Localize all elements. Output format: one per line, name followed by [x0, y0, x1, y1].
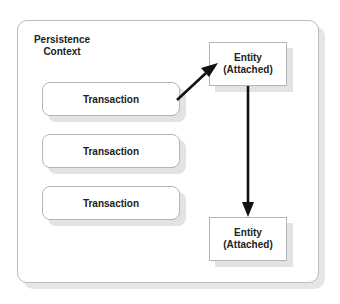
context-label-line1: Persistence	[26, 34, 98, 46]
transaction-label: Transaction	[83, 146, 139, 157]
persistence-context-label: Persistence Context	[26, 34, 98, 58]
entity-label-line1: Entity	[234, 52, 262, 64]
context-label-line2: Context	[26, 46, 98, 58]
entity-box-2: Entity (Attached)	[209, 217, 287, 261]
transaction-box-2: Transaction	[42, 134, 180, 168]
transaction-box-3: Transaction	[42, 186, 180, 220]
entity-label-line2: (Attached)	[223, 239, 272, 251]
transaction-box-1: Transaction	[42, 82, 180, 116]
entity-label-line1: Entity	[234, 227, 262, 239]
transaction-label: Transaction	[83, 94, 139, 105]
entity-box-1: Entity (Attached)	[209, 42, 287, 86]
transaction-label: Transaction	[83, 198, 139, 209]
entity-label-line2: (Attached)	[223, 64, 272, 76]
